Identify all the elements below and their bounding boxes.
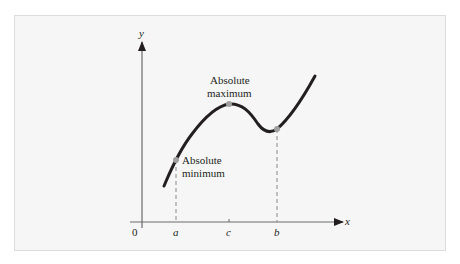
absolute-maximum-label-line2: maximum [207, 87, 252, 99]
absolute-minimum-label-line1: Absolute [182, 154, 222, 166]
tick-label-a: a [173, 226, 179, 238]
y-axis-label: y [138, 27, 144, 39]
origin-label: 0 [132, 226, 138, 238]
tick-label-b: b [274, 226, 280, 238]
endpoint-b-point [274, 126, 280, 132]
x-axis-label: x [344, 215, 350, 227]
absolute-maximum-point [226, 101, 232, 107]
absolute-maximum-label-line1: Absolute [210, 74, 250, 86]
extrema-graph: y x 0 a c b Absolute maximum Absolute mi… [0, 0, 460, 264]
absolute-minimum-label-line2: minimum [182, 167, 225, 179]
absolute-minimum-point [173, 157, 179, 163]
tick-label-c: c [226, 226, 231, 238]
